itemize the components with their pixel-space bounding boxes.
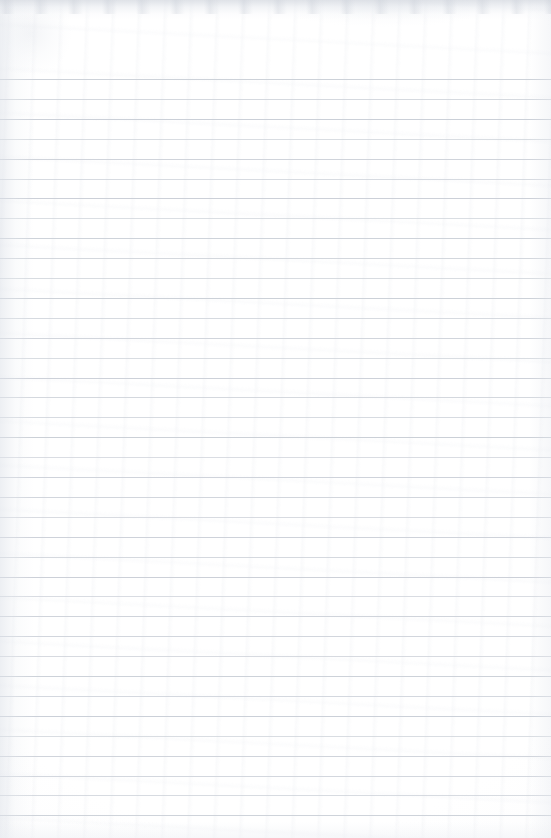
paper-background <box>0 0 551 838</box>
scanned-page <box>0 0 551 838</box>
